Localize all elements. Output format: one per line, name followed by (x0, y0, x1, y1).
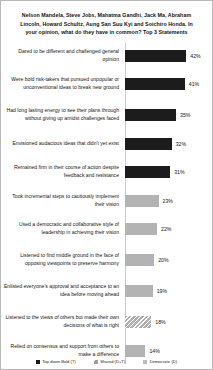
bar-row: Listened to find middle ground in the fa… (1, 245, 212, 276)
bar-category-label: Remained firm in their course of action … (1, 164, 123, 180)
chart-container: Nelson Mandela, Steve Jobs, Mahatma Gand… (0, 0, 213, 370)
bar-value-label: 32% (176, 141, 186, 147)
bar-row: Enlisted everyone's approval and accepta… (1, 276, 212, 307)
bar-value-label: 22% (161, 226, 171, 232)
bar-category-label: Took incremental steps to cautiously imp… (1, 193, 123, 209)
legend-label: Shared (D+T) (100, 359, 125, 364)
bar (125, 195, 159, 207)
legend-item[interactable]: Top-down Bold (T) (36, 359, 76, 364)
bar-row: Envisioned audacious ideas that didn't y… (1, 131, 212, 157)
bar-row: Were bold risk-takers that pursued unpop… (1, 69, 212, 100)
bar (125, 254, 154, 266)
legend-swatch-icon (143, 360, 147, 364)
legend-item[interactable]: Democratic (D) (143, 359, 177, 364)
bar-track: 23% (123, 188, 212, 214)
bar-track: 22% (123, 214, 212, 245)
bar (125, 316, 151, 328)
legend-label: Democratic (D) (150, 359, 178, 364)
legend-swatch-icon (36, 360, 40, 364)
bar-category-label: Envisioned audacious ideas that didn't y… (1, 140, 123, 148)
bar (125, 285, 153, 297)
bar-category-label: Listened to find middle ground in the fa… (1, 252, 123, 268)
legend-swatch-icon (94, 360, 98, 364)
bar-value-label: 18% (155, 319, 165, 325)
bar-track: 18% (123, 307, 212, 338)
bar-list: Dared to be different and challenged gen… (1, 43, 212, 364)
bar-category-label: Used a democratic and collaborative styl… (1, 221, 123, 237)
bar-value-label: 31% (174, 169, 184, 175)
bar (125, 78, 185, 90)
bar-value-label: 23% (163, 198, 173, 204)
bar-row: Dared to be different and challenged gen… (1, 43, 212, 69)
bar-value-label: 42% (190, 53, 200, 59)
bar-row: Used a democratic and collaborative styl… (1, 214, 212, 245)
bar (125, 166, 170, 178)
chart-title: Nelson Mandela, Steve Jobs, Mahatma Gand… (1, 1, 212, 37)
bar-row: Had long lasting energy to see their pla… (1, 100, 212, 131)
bar-category-label: Had long lasting energy to see their pla… (1, 107, 123, 123)
bar-track: 41% (123, 69, 212, 100)
bar (125, 138, 172, 150)
bar-category-label: Were bold risk-takers that pursued unpop… (1, 76, 123, 92)
bar-category-label: Relied on consensus and support from oth… (1, 343, 123, 359)
bar-value-label: 35% (180, 112, 190, 118)
bar-track: 42% (123, 43, 212, 69)
bar-track: 35% (123, 100, 212, 131)
bar-category-label: Listened to the views of others but made… (1, 314, 123, 330)
bar-track: 31% (123, 157, 212, 188)
bar-value-label: 19% (157, 288, 167, 294)
bar-row: Took incremental steps to cautiously imp… (1, 188, 212, 214)
bar (125, 109, 176, 121)
bar-category-label: Dared to be different and challenged gen… (1, 48, 123, 64)
plot-area: Dared to be different and challenged gen… (1, 43, 212, 364)
bar-row: Listened to the views of others but made… (1, 307, 212, 338)
bar (125, 345, 145, 357)
bar-track: 20% (123, 245, 212, 276)
bar-row: Remained firm in their course of action … (1, 157, 212, 188)
bar (125, 50, 186, 62)
bar-value-label: 20% (158, 257, 168, 263)
bar-track: 19% (123, 276, 212, 307)
chart-legend: Top-down Bold (T)Shared (D+T)Democratic … (1, 359, 212, 364)
legend-label: Top-down Bold (T) (42, 359, 75, 364)
legend-item[interactable]: Shared (D+T) (94, 359, 125, 364)
bar-category-label: Enlisted everyone's approval and accepta… (1, 283, 123, 299)
bar-value-label: 41% (189, 81, 199, 87)
bar-value-label: 14% (149, 348, 159, 354)
bar-track: 32% (123, 131, 212, 157)
bar (125, 223, 157, 235)
